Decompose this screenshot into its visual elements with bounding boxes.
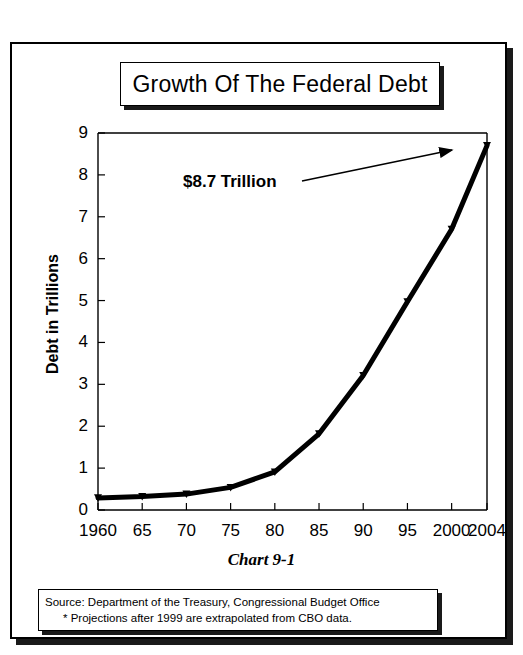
y-tick-label: 9 <box>62 124 88 141</box>
title-box: Growth Of The Federal Debt <box>120 62 440 106</box>
y-tick-label: 0 <box>62 501 88 518</box>
y-tick-label: 1 <box>62 459 88 476</box>
page-title: Growth Of The Federal Debt <box>133 71 428 98</box>
y-tick-label: 8 <box>62 166 88 183</box>
value-annotation-label: $8.7 Trillion <box>183 172 277 192</box>
source-line-1: Source: Department of the Treasury, Cong… <box>45 594 431 610</box>
chart-number-caption: Chart 9-1 <box>0 550 523 570</box>
source-line-2: * Projections after 1999 are extrapolate… <box>45 610 431 626</box>
y-axis-title: Debt in Trillions <box>44 199 62 429</box>
source-box: Source: Department of the Treasury, Cong… <box>38 589 438 631</box>
y-tick-label: 2 <box>62 417 88 434</box>
y-tick-label: 4 <box>62 333 88 350</box>
x-tick-label: 2004 <box>459 522 515 539</box>
y-tick-label: 3 <box>62 375 88 392</box>
y-tick-label: 5 <box>62 292 88 309</box>
y-tick-label: 6 <box>62 250 88 267</box>
y-tick-label: 7 <box>62 208 88 225</box>
